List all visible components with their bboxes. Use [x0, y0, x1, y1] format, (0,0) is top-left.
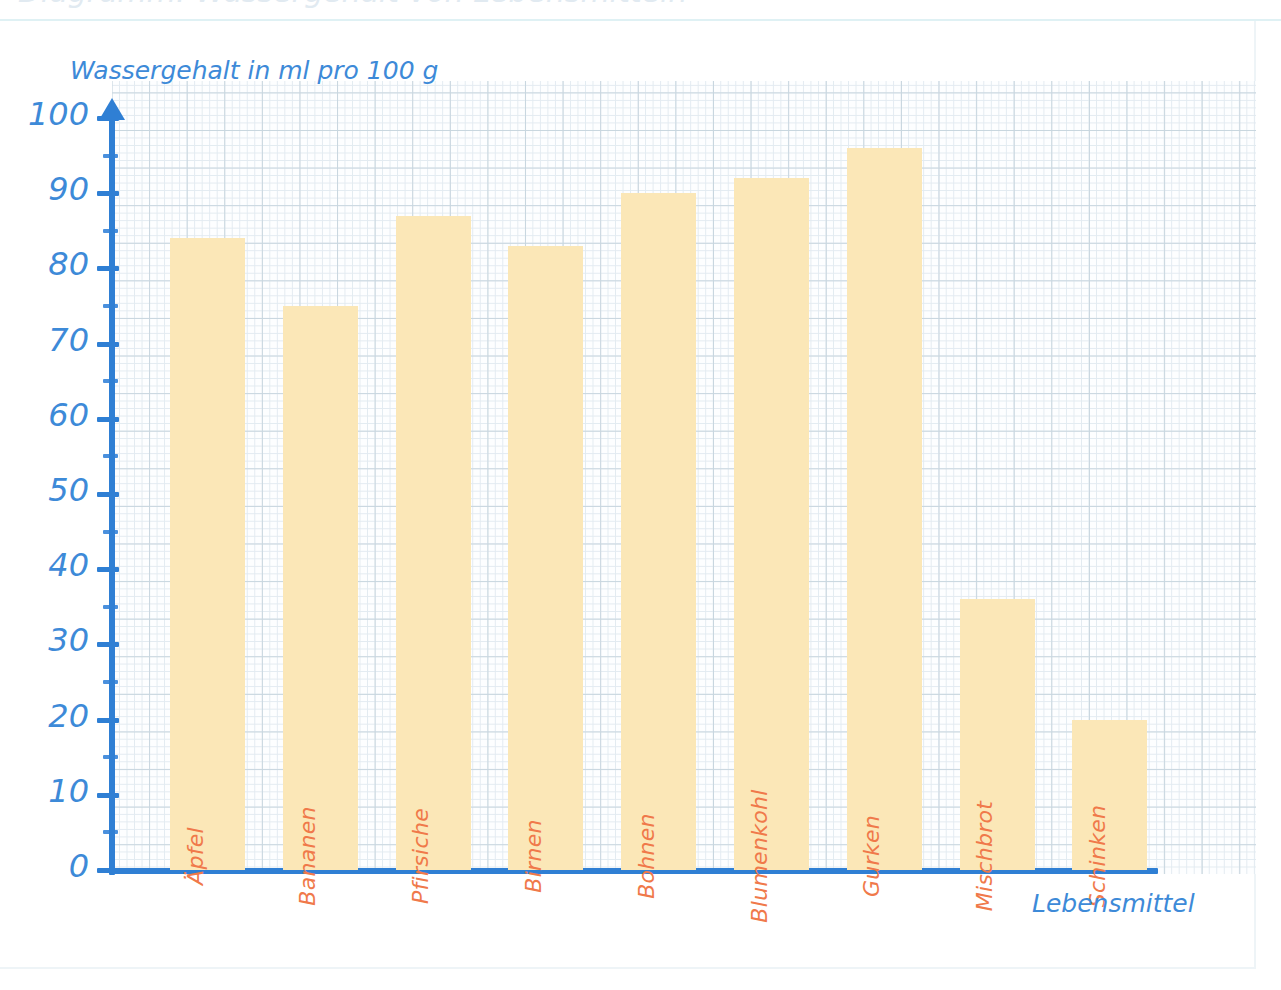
y-tick-label: 40	[0, 549, 89, 581]
y-tick-label: 20	[0, 700, 89, 732]
y-tick-label: 70	[0, 324, 89, 356]
sheet-bottom-edge	[0, 967, 1256, 969]
bar-category-label: Blumenkohl	[747, 789, 772, 922]
y-tick-label: 80	[0, 248, 89, 280]
bar-category-label: Bohnen	[634, 813, 659, 899]
bar[interactable]: Bohnen	[621, 193, 696, 870]
bar[interactable]: Bananen	[283, 306, 358, 870]
bar[interactable]: Gurken	[847, 148, 922, 870]
y-tick-label: 50	[0, 474, 89, 506]
y-tick-label: 30	[0, 624, 89, 656]
cut-off-title-text: Diagramm: Wassergehalt von Lebensmitteln	[18, 0, 688, 9]
bar-category-label: Äpfel	[183, 827, 208, 885]
y-tick-label: 100	[0, 98, 89, 130]
bar-category-label: Birnen	[521, 819, 546, 892]
y-tick-label: 10	[0, 775, 89, 807]
bar[interactable]: Mischbrot	[960, 599, 1035, 870]
bar[interactable]: Birnen	[508, 246, 583, 870]
x-axis-title: Lebensmittel	[1032, 889, 1195, 918]
cut-off-title: Diagramm: Wassergehalt von Lebensmitteln	[0, 0, 1281, 17]
y-tick-label: 60	[0, 399, 89, 431]
y-axis-title: Wassergehalt in ml pro 100 g	[70, 56, 438, 85]
bar[interactable]: Pfirsiche	[396, 216, 471, 870]
y-tick-label: 90	[0, 173, 89, 205]
bar-category-label: Mischbrot	[972, 801, 997, 911]
bar[interactable]: Schinken	[1072, 720, 1147, 870]
bar[interactable]: Blumenkohl	[734, 178, 809, 870]
bar-category-label: Bananen	[295, 806, 320, 906]
plot-area: ÄpfelBananenPfirsicheBirnenBohnenBlumenk…	[112, 118, 1257, 870]
bar-category-label: Pfirsiche	[408, 808, 433, 904]
bar-category-label: Gurken	[859, 815, 884, 897]
chart-page: Diagramm: Wassergehalt von Lebensmitteln…	[0, 0, 1281, 990]
y-tick-label: 0	[0, 850, 89, 882]
bar[interactable]: Äpfel	[170, 238, 245, 870]
